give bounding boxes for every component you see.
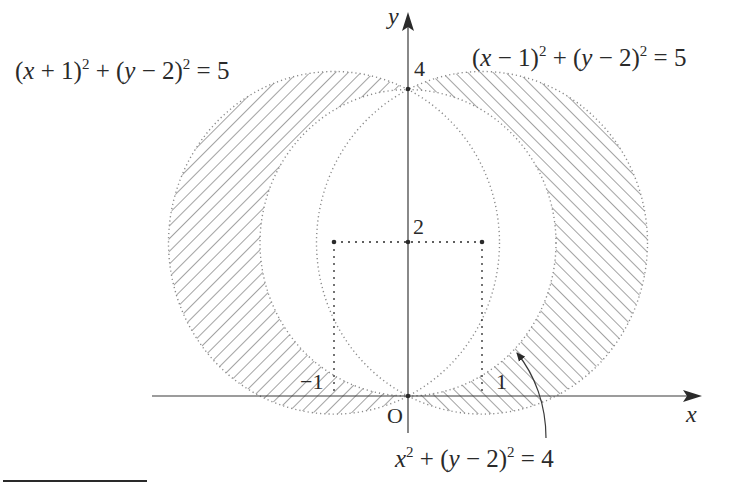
middle-circle-equation: x2 + (y − 2)2 = 4 — [395, 446, 554, 471]
y-tick-2: 2 — [413, 216, 424, 238]
origin-label: O — [387, 405, 403, 427]
y-axis-label: y — [388, 4, 399, 28]
x-tick-1: 1 — [496, 371, 507, 393]
left-circle-equation: (x + 1)2 + (y − 2)2 = 5 — [15, 58, 229, 83]
right-circle-equation: (x − 1)2 + (y − 2)2 = 5 — [472, 45, 686, 70]
x-tick-neg1: −1 — [300, 371, 323, 393]
y-tick-4: 4 — [414, 58, 425, 80]
x-axis-label: x — [686, 402, 697, 426]
